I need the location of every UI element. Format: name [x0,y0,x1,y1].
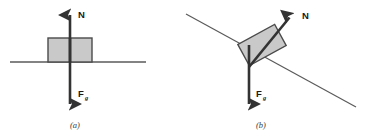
gravitational-force-subscript-b: g [262,94,267,101]
gravitational-force-label-group-a: F g [78,88,89,101]
gravitational-force-label-b: F [256,88,262,99]
panel-b: N F g (b) [186,10,356,130]
gravitational-force-label-a: F [78,88,84,99]
normal-force-label-b: N [302,10,309,21]
normal-force-label-a: N [78,9,85,20]
gravitational-force-subscript-a: g [84,94,89,101]
panel-a: N F g (a) [10,9,146,130]
panel-a-caption: (a) [70,120,80,130]
panel-b-caption: (b) [256,120,266,130]
free-body-diagram-svg: N F g (a) N F g (b) [0,0,370,140]
gravitational-force-label-group-b: F g [256,88,267,101]
physics-figure: N F g (a) N F g (b) [0,0,370,140]
